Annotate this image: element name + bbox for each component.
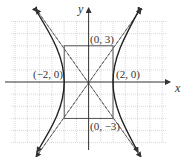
top-vertex-label: (0, 3) <box>90 33 114 46</box>
left-vertex-label: (−2, 0) <box>33 68 63 81</box>
hyperbola-graph: y x (0, 3) (0, −3) (−2, 0) (2, 0) <box>0 0 187 157</box>
right-vertex-label: (2, 0) <box>116 68 140 81</box>
x-axis-label: x <box>174 81 181 95</box>
bottom-vertex-label: (0, −3) <box>90 120 120 133</box>
y-axis-label: y <box>77 2 84 16</box>
